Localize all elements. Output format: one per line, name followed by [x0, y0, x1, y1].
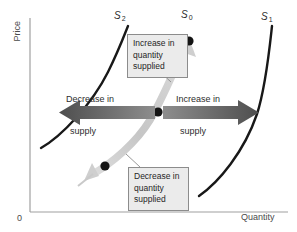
curve-label-s0-text: S: [181, 9, 188, 20]
supply-curve-diagram: Price Quantity 0 S2 S0 S1 Increase in qu…: [0, 0, 297, 232]
curve-label-s1: S1: [261, 12, 272, 22]
callout-decrease-quantity-supplied: Decrease in quantity supplied: [128, 167, 189, 211]
curve-label-s2: S2: [114, 11, 125, 21]
callout-decrease-line1: Decrease in: [134, 171, 183, 183]
curve-label-s1-text: S: [261, 11, 268, 22]
decrease-supply-label-line2: supply: [70, 127, 96, 136]
curve-label-s1-subscript: 1: [269, 16, 273, 23]
increase-supply-label-line2: supply: [180, 127, 206, 136]
x-axis-label: Quantity: [241, 213, 275, 222]
callout-leader-lower: [126, 154, 140, 167]
callout-increase-line3: supplied: [133, 61, 182, 73]
y-axis-label: Price: [13, 21, 22, 42]
curve-label-s0-subscript: 0: [189, 14, 193, 21]
decrease-supply-label-line1: Decrease in: [66, 95, 114, 104]
callout-decrease-line3: supplied: [134, 194, 183, 206]
origin-label: 0: [17, 214, 22, 223]
callout-increase-line1: Increase in: [133, 38, 182, 50]
increase-supply-label-line1: Increase in: [176, 95, 220, 104]
callout-increase-quantity-supplied: Increase in quantity supplied: [127, 34, 188, 78]
curve-label-s0: S0: [181, 10, 192, 20]
s0-lower-tail: [78, 174, 93, 186]
callout-decrease-line2: quantity: [134, 183, 183, 195]
callout-increase-line2: quantity: [133, 50, 182, 62]
curve-label-s2-subscript: 2: [122, 15, 126, 22]
point-lower: [100, 161, 109, 170]
curve-label-s2-text: S: [114, 10, 121, 21]
